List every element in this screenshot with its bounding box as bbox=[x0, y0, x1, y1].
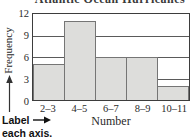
annotation-label-text: Label bbox=[2, 114, 29, 126]
plot-area bbox=[32, 13, 190, 101]
bars bbox=[33, 14, 189, 100]
annotation-line2: each axis. bbox=[2, 127, 52, 139]
y-tick-0: 0 bbox=[10, 96, 29, 107]
annotation-line1: Label bbox=[2, 114, 51, 126]
bar-6–7 bbox=[95, 57, 127, 100]
x-tick-8–9: 8–9 bbox=[127, 103, 159, 115]
bar-2–3 bbox=[33, 64, 65, 100]
x-axis-label: Number bbox=[32, 115, 190, 127]
y-axis-ticks: 036912 bbox=[10, 13, 29, 101]
right-arrow-icon bbox=[33, 116, 51, 124]
bar-4–5 bbox=[64, 21, 96, 100]
histogram-figure: Atlantic Ocean Hurricanes Frequency 0369… bbox=[0, 0, 192, 140]
y-tick-9: 9 bbox=[10, 30, 29, 41]
bar-10–11 bbox=[157, 86, 189, 100]
y-tick-6: 6 bbox=[10, 52, 29, 63]
y-tick-12: 12 bbox=[10, 8, 29, 19]
y-tick-3: 3 bbox=[10, 74, 29, 85]
chart-title-clipped: Atlantic Ocean Hurricanes bbox=[28, 0, 192, 6]
x-tick-10–11: 10–11 bbox=[158, 103, 190, 115]
chart-title: Atlantic Ocean Hurricanes bbox=[28, 0, 192, 5]
bar-8–9 bbox=[126, 57, 158, 100]
